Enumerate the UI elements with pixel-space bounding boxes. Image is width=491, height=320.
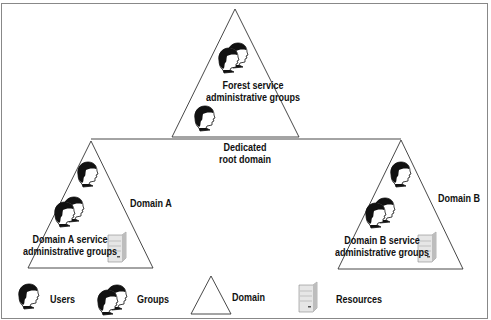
diagram-canvas: Forest service administrative groups Ded… [0, 0, 491, 320]
legend-groups-icon [98, 285, 127, 315]
domain-a-name: Domain A [130, 197, 172, 209]
root-domain-label: Dedicated root domain [200, 141, 290, 165]
domain-a-label: Domain A service administrative groups [21, 233, 119, 257]
domain-b-groups-icon [366, 198, 395, 228]
domain-a-groups-icon [55, 197, 84, 227]
legend-domain-icon [191, 276, 231, 314]
domain-b-label: Domain B service administrative groups [333, 234, 431, 258]
forest-triangle [172, 9, 299, 137]
forest-label: Forest service administrative groups [196, 79, 311, 103]
legend-domain-label: Domain [232, 291, 265, 303]
legend-resources-icon [299, 282, 317, 312]
forest-user-icon [195, 106, 215, 131]
legend-users-label: Users [50, 293, 75, 305]
domain-b-user-icon [391, 162, 411, 187]
domain-b-name: Domain B [438, 192, 480, 204]
domain-a-user-icon [78, 162, 98, 187]
legend-resources-label: Resources [336, 293, 382, 305]
legend-groups-label: Groups [137, 293, 169, 305]
legend-users-icon [19, 284, 39, 309]
forest-groups-icon [219, 43, 248, 73]
